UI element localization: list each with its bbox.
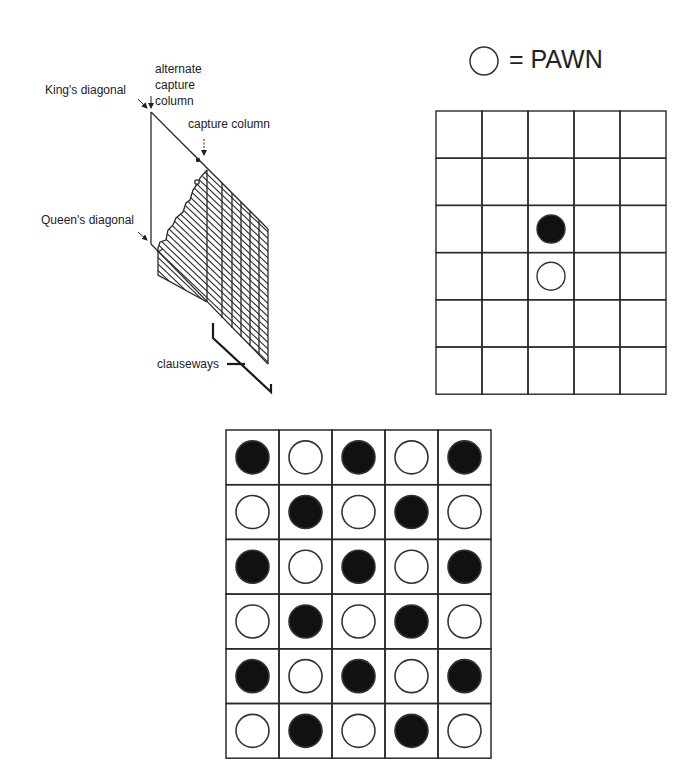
board-cell — [574, 253, 620, 300]
board-cell — [436, 300, 482, 347]
board-cell — [482, 300, 528, 347]
white-pawn-icon — [448, 496, 481, 529]
bottom-board — [226, 430, 491, 758]
black-pawn-icon — [342, 441, 375, 474]
white-pawn-icon — [236, 605, 269, 638]
board-cell — [482, 347, 528, 394]
pawn-legend-label: = PAWN — [509, 45, 603, 74]
board-cell — [620, 253, 666, 300]
board-cell — [482, 205, 528, 252]
board-cell — [482, 158, 528, 205]
board-cell — [574, 300, 620, 347]
queens-diagonal-arrow-icon — [138, 232, 147, 240]
label-line: capture — [155, 77, 202, 93]
board-cell — [528, 300, 574, 347]
white-pawn-icon — [236, 714, 269, 747]
white-pawn-icon — [289, 660, 322, 693]
board-cell — [528, 347, 574, 394]
white-pawn-icon — [236, 496, 269, 529]
black-pawn-icon — [236, 660, 269, 693]
board-cell — [436, 253, 482, 300]
black-pawn-icon — [448, 550, 481, 583]
black-pawn-icon — [395, 605, 428, 638]
white-pawn-icon — [395, 550, 428, 583]
board-cell — [528, 158, 574, 205]
capture-column-dot — [196, 158, 200, 162]
diagram-canvas — [0, 0, 699, 784]
board-cell — [482, 111, 528, 158]
black-pawn-icon — [236, 550, 269, 583]
board-cell — [528, 111, 574, 158]
board-cell — [574, 158, 620, 205]
board-cell — [620, 347, 666, 394]
black-pawn-icon — [236, 441, 269, 474]
capture-column-label: capture column — [188, 116, 270, 132]
white-pawn-icon — [342, 496, 375, 529]
label-line: alternate — [155, 61, 202, 77]
black-pawn-icon — [395, 714, 428, 747]
top-right-board — [436, 111, 666, 394]
white-pawn-icon — [448, 605, 481, 638]
board-cell — [436, 158, 482, 205]
board-cell — [620, 205, 666, 252]
kings-diagonal-label: King's diagonal — [45, 82, 126, 98]
white-pawn-icon — [395, 660, 428, 693]
white-pawn-icon — [448, 714, 481, 747]
black-pawn-icon — [342, 660, 375, 693]
black-pawn-icon — [448, 660, 481, 693]
board-cell — [482, 253, 528, 300]
alternate-capture-column-label: alternate capture column — [155, 61, 202, 109]
board-cell — [436, 205, 482, 252]
white-pawn-icon — [342, 605, 375, 638]
board-cell — [436, 347, 482, 394]
black-pawn-icon — [289, 496, 322, 529]
black-pawn-icon — [448, 441, 481, 474]
board-cell — [574, 111, 620, 158]
black-pawn-icon — [289, 605, 322, 638]
white-pawn-icon — [289, 441, 322, 474]
board-cell — [620, 158, 666, 205]
black-pawn-icon — [537, 215, 565, 243]
black-pawn-icon — [289, 714, 322, 747]
board-cell — [436, 111, 482, 158]
black-pawn-icon — [342, 550, 375, 583]
pawn-legend-icon — [470, 47, 498, 75]
board-cell — [620, 111, 666, 158]
white-pawn-icon — [537, 262, 565, 290]
board-cell — [574, 347, 620, 394]
label-line: column — [155, 93, 202, 109]
black-pawn-icon — [395, 496, 428, 529]
board-cell — [620, 300, 666, 347]
kings-diagonal-arrow-icon — [138, 99, 147, 108]
queens-diagonal-label: Queen's diagonal — [41, 212, 134, 228]
clauseways-label: clauseways — [157, 356, 219, 372]
white-pawn-icon — [289, 550, 322, 583]
white-pawn-icon — [342, 714, 375, 747]
white-pawn-icon — [395, 441, 428, 474]
board-cell — [574, 205, 620, 252]
